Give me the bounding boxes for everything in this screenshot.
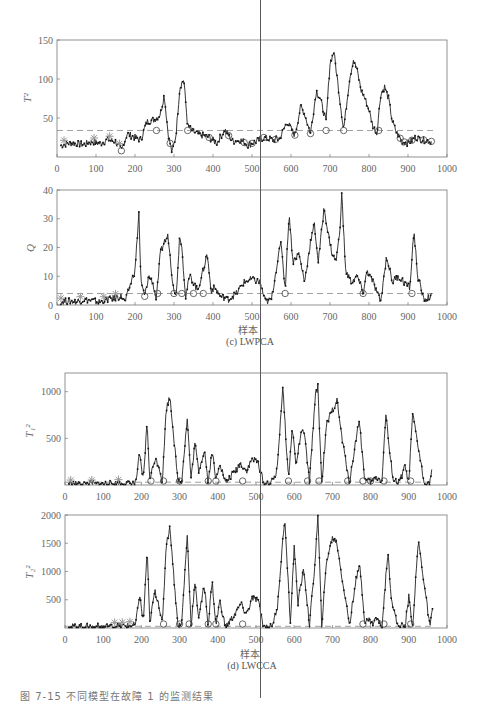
x-axis-label-d: 样本	[220, 646, 280, 661]
star-marker-icon	[118, 618, 126, 626]
star-marker-icon	[126, 618, 134, 626]
x-tick-label: 100	[96, 634, 111, 645]
x-tick-label: 300	[172, 634, 187, 645]
x-tick-label: 600	[287, 634, 302, 645]
y-tick-label: 500	[46, 594, 61, 605]
data-point-markers	[68, 515, 433, 628]
star-marker-icon	[111, 618, 119, 626]
x-tick-label: 200	[134, 634, 149, 645]
circle-marker-icon	[239, 621, 245, 627]
figure-caption: 图 7-15 不同模型在故障 1 的监测结果	[20, 688, 214, 703]
subfigure-caption-d: (d) LWCCA	[192, 660, 312, 671]
x-tick-label: 800	[363, 634, 378, 645]
x-tick-label: 700	[325, 634, 340, 645]
x-tick-label: 500	[249, 634, 264, 645]
circle-marker-icon	[381, 621, 387, 627]
vertical-guide-line	[260, 0, 261, 698]
y-tick-label: 1500	[41, 538, 61, 549]
x-tick-label: 1000	[437, 634, 457, 645]
monitoring-statistic-line	[69, 516, 433, 628]
y-tick-label: 2000	[41, 510, 61, 521]
x-tick-label: 900	[401, 634, 416, 645]
x-tick-label: 400	[210, 634, 225, 645]
circle-marker-icon	[160, 621, 166, 627]
y-tick-label: 1000	[41, 566, 61, 577]
chart-t2-lwcca: 0100200300400500600700800900100050010001…	[0, 0, 482, 650]
y-axis-label-t2-cca: T₂²	[23, 565, 35, 578]
x-tick-label: 0	[63, 634, 68, 645]
